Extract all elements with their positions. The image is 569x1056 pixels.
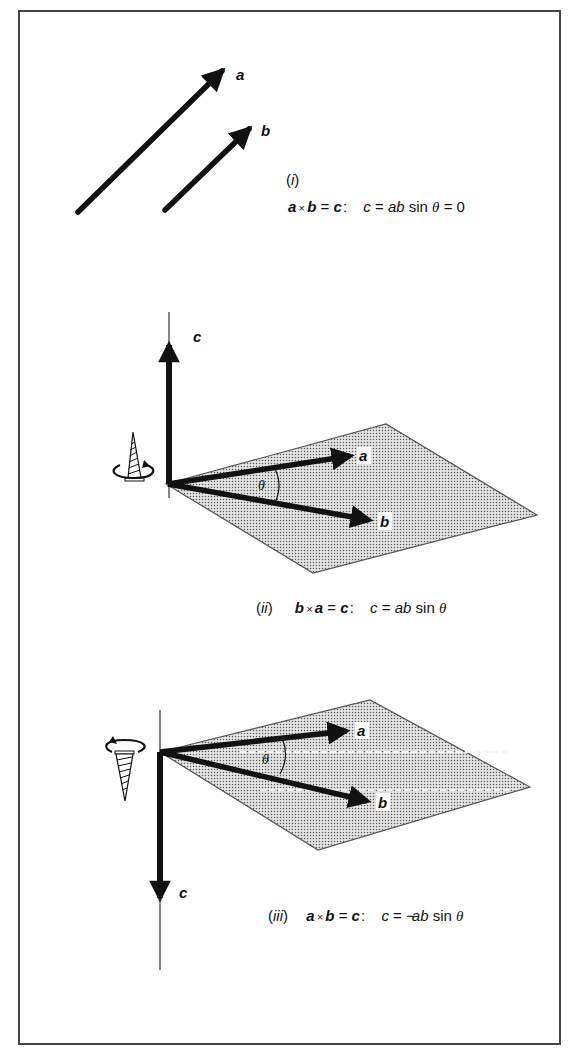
vector-a-arrow <box>78 71 222 212</box>
vector-a-label: a <box>357 722 365 739</box>
panel-i-equation: a × b = c : c = ab sin θ = 0 <box>288 198 465 215</box>
figure-canvas: a b (i) a × b = c : c = ab sin θ = 0 <box>0 0 569 1056</box>
panel-ii: c a b θ <box>114 312 537 616</box>
panel-i: a b (i) a × b = c : c = ab sin θ = 0 <box>78 66 465 215</box>
angle-theta-label: θ <box>258 478 265 493</box>
vector-b-label: b <box>261 122 270 139</box>
panel-iii: c a b θ <box>106 700 530 970</box>
ab-plane <box>166 424 537 573</box>
panel-iii-equation: (iii) a × b = c : c = −ab sin θ <box>268 907 464 924</box>
angle-theta-label: θ <box>262 752 269 767</box>
panel-ii-equation: (ii) b × a = c : c = ab sin θ <box>256 599 447 616</box>
vector-b-arrow <box>165 129 249 210</box>
vector-b-label: b <box>378 794 387 811</box>
vector-b-label: b <box>380 513 389 530</box>
vector-c-label: c <box>179 884 188 901</box>
vector-a-label: a <box>236 66 244 83</box>
vector-c-label: c <box>193 328 202 345</box>
vector-a-label: a <box>359 447 367 464</box>
panel-i-label: (i) <box>286 171 299 188</box>
screw-down-icon <box>106 736 145 801</box>
ab-plane <box>160 700 530 850</box>
screw-up-icon <box>114 432 154 481</box>
cross-product-figure: a b (i) a × b = c : c = ab sin θ = 0 <box>0 0 569 1056</box>
